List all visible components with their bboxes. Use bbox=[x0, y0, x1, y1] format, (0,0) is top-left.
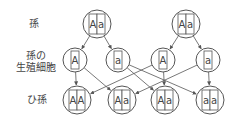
allele-label: A bbox=[115, 95, 122, 106]
allele-label: a bbox=[211, 95, 217, 106]
allele-label: a bbox=[166, 95, 172, 106]
arrow bbox=[84, 68, 110, 91]
offspring-cell: aa bbox=[196, 86, 224, 114]
arrow bbox=[170, 36, 178, 49]
allele-label: a bbox=[205, 55, 211, 66]
offspring-cell: Aa bbox=[151, 86, 179, 114]
gamete-cell: A bbox=[151, 48, 175, 72]
allele-label: A bbox=[160, 55, 167, 66]
allele-label: a bbox=[123, 95, 129, 106]
arrow bbox=[193, 36, 201, 49]
arrow bbox=[82, 36, 90, 49]
allele-label: a bbox=[115, 55, 121, 66]
inheritance-diagram: AaAaAaAaAAAaAaaa bbox=[0, 0, 234, 125]
arrow bbox=[104, 36, 111, 49]
arrow bbox=[76, 72, 77, 85]
allele-label: A bbox=[70, 95, 77, 106]
arrows bbox=[76, 36, 210, 94]
allele-label: A bbox=[90, 19, 97, 30]
arrow bbox=[209, 72, 210, 85]
gamete-cell: A bbox=[63, 48, 87, 72]
allele-label: A bbox=[179, 19, 186, 30]
offspring-cell: Aa bbox=[108, 86, 136, 114]
parent-cell: Aa bbox=[83, 10, 111, 38]
parent-cell: Aa bbox=[172, 10, 200, 38]
allele-label: a bbox=[187, 19, 193, 30]
allele-label: a bbox=[203, 95, 209, 106]
arrow bbox=[164, 72, 165, 85]
gamete-cell: a bbox=[196, 48, 220, 72]
offspring-cell: AA bbox=[63, 86, 91, 114]
gamete-cell: a bbox=[106, 48, 130, 72]
allele-label: A bbox=[78, 95, 85, 106]
allele-label: A bbox=[72, 55, 79, 66]
allele-label: a bbox=[98, 19, 104, 30]
nodes: AaAaAaAaAAAaAaaa bbox=[63, 10, 224, 114]
allele-label: A bbox=[158, 95, 165, 106]
